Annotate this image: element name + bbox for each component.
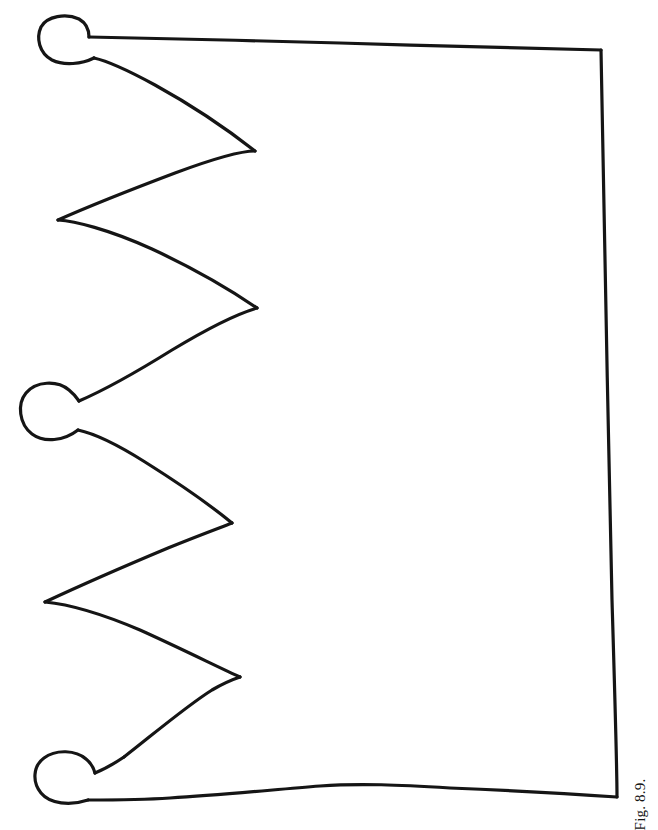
crown-outline-drawing xyxy=(0,0,658,823)
figure-page: Fig. 8.9. xyxy=(0,0,658,823)
page-background xyxy=(0,0,658,823)
